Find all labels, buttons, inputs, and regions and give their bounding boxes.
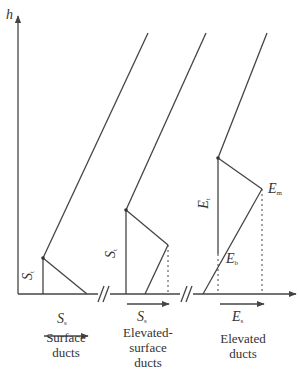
- elevated-surface-width-label: Ss: [137, 310, 147, 325]
- duct-diagram: [0, 0, 299, 369]
- elevated-caption: Elevatedducts: [203, 331, 283, 361]
- surface-caption: Surfaceducts: [26, 330, 106, 360]
- elevated-surface-caption: Elevated-surfaceducts: [108, 325, 188, 369]
- surface-thickness-label: St: [21, 271, 36, 280]
- elevated-bottom-point-label: Eb: [226, 252, 238, 267]
- elevated-thickness-label: Et: [197, 198, 212, 209]
- y-axis-label: h: [6, 8, 13, 22]
- elevated-top-point-label: Em: [268, 182, 282, 197]
- elevated-width-label: Es: [232, 310, 243, 325]
- surface-width-label: Ss: [57, 312, 67, 327]
- elevated-surface-thickness-label: St: [104, 249, 119, 258]
